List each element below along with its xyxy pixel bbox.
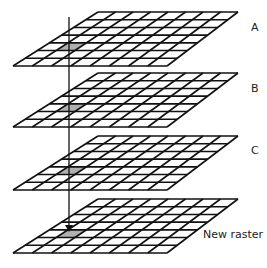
layer-label: A <box>251 21 259 34</box>
layer-label: New raster <box>203 228 263 241</box>
layer-label: C <box>251 144 259 157</box>
layer-label: B <box>251 82 259 95</box>
